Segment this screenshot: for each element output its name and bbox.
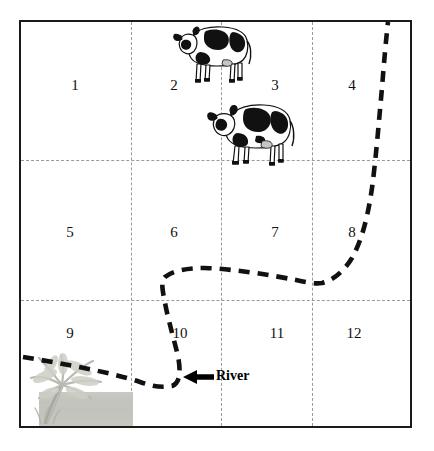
cell-label-1: 1 bbox=[60, 78, 90, 93]
palm-tree-icon bbox=[21, 352, 133, 426]
cell-label-7: 7 bbox=[260, 225, 290, 240]
cell-label-9: 9 bbox=[55, 326, 85, 341]
cell-label-5: 5 bbox=[55, 225, 85, 240]
cell-label-10: 10 bbox=[165, 326, 195, 341]
river-label: River bbox=[216, 369, 249, 383]
cell-label-12: 12 bbox=[339, 326, 369, 341]
cow-icon-lower bbox=[207, 92, 297, 168]
cell-label-6: 6 bbox=[159, 225, 189, 240]
field-map-figure: 1 2 3 4 5 6 7 8 9 10 11 12 bbox=[0, 0, 434, 451]
cell-label-8: 8 bbox=[337, 225, 367, 240]
cell-label-4: 4 bbox=[337, 78, 367, 93]
grid-line-horizontal-2 bbox=[21, 300, 410, 301]
cell-label-3: 3 bbox=[260, 78, 290, 93]
cow-icon-upper bbox=[173, 14, 255, 86]
cell-label-11: 11 bbox=[262, 326, 292, 341]
grid-line-vertical-3 bbox=[312, 22, 313, 426]
